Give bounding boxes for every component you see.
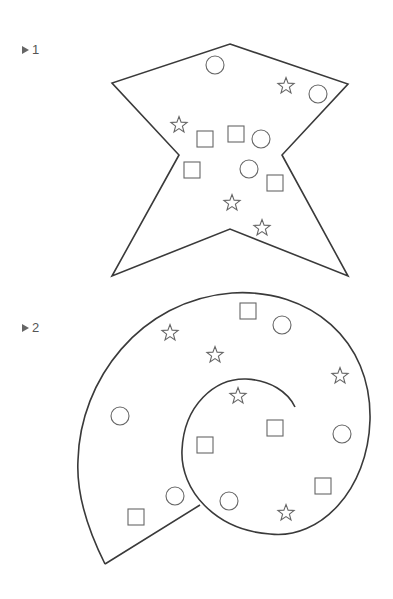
square-icon: [197, 131, 213, 147]
circle-icon: [220, 492, 238, 510]
square-icon: [228, 126, 244, 142]
spiral-shell-outline: [78, 293, 370, 564]
puzzle-figures: [0, 0, 393, 599]
circle-icon: [111, 407, 129, 425]
square-icon: [197, 437, 213, 453]
star-icon: [278, 505, 294, 520]
star-icon: [278, 78, 294, 93]
circle-icon: [166, 487, 184, 505]
circle-icon: [240, 160, 258, 178]
circle-icon: [206, 56, 224, 74]
item-layer: [111, 56, 351, 525]
circle-icon: [333, 425, 351, 443]
square-icon: [267, 175, 283, 191]
star-icon: [230, 388, 246, 403]
square-icon: [240, 303, 256, 319]
circle-icon: [309, 85, 327, 103]
square-icon: [267, 420, 283, 436]
star-icon: [162, 325, 178, 340]
star-icon: [207, 347, 223, 362]
star-icon: [224, 195, 240, 210]
square-icon: [184, 162, 200, 178]
circle-icon: [252, 130, 270, 148]
star-polygon-outline: [112, 44, 348, 276]
star-icon: [332, 368, 348, 383]
square-icon: [128, 509, 144, 525]
star-icon: [254, 220, 270, 235]
star-icon: [171, 117, 187, 132]
square-icon: [315, 478, 331, 494]
circle-icon: [273, 316, 291, 334]
